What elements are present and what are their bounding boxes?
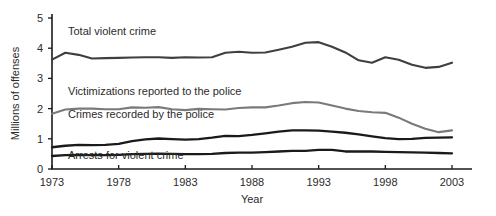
- violent-crime-line-chart: 012345 1973197819831988199319982003 Tota…: [0, 0, 496, 216]
- x-tick-label: 1998: [373, 176, 397, 188]
- series-label-3: Arrests for violent crime: [68, 149, 184, 161]
- y-axis-title: Millions of offenses: [9, 46, 21, 140]
- y-axis-tick-labels: 012345: [37, 12, 43, 175]
- series-line-2: [52, 130, 452, 147]
- series-layer: [52, 42, 452, 156]
- y-tick-label: 0: [37, 163, 43, 175]
- y-tick-label: 1: [37, 133, 43, 145]
- series-label-2: Crimes recorded by the police: [68, 108, 214, 120]
- x-axis-tick-labels: 1973197819831988199319982003: [40, 176, 464, 188]
- chart-canvas: 012345 1973197819831988199319982003 Tota…: [0, 0, 496, 216]
- y-tick-label: 5: [37, 12, 43, 24]
- x-axis-group: 1973197819831988199319982003: [40, 165, 472, 188]
- y-axis-group: 012345: [37, 12, 52, 175]
- series-label-0: Total violent crime: [68, 25, 156, 37]
- series-label-1: Victimizations reported to the police: [68, 85, 241, 97]
- y-tick-label: 3: [37, 72, 43, 84]
- x-axis-title: Year: [241, 193, 264, 205]
- series-line-0: [52, 42, 452, 68]
- x-tick-label: 1993: [306, 176, 330, 188]
- x-tick-label: 2003: [440, 176, 464, 188]
- x-tick-label: 1983: [173, 176, 197, 188]
- x-tick-label: 1978: [106, 176, 130, 188]
- x-tick-label: 1988: [240, 176, 264, 188]
- y-tick-label: 2: [37, 103, 43, 115]
- y-tick-label: 4: [37, 42, 43, 54]
- series-label-layer: Total violent crimeVictimizations report…: [68, 25, 241, 161]
- x-tick-label: 1973: [40, 176, 64, 188]
